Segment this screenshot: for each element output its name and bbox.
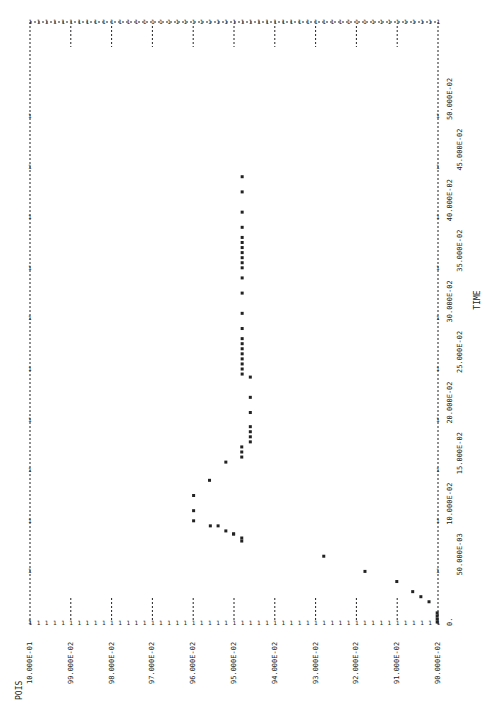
axis-marker: 1	[363, 18, 367, 25]
axis-marker: 1	[290, 18, 294, 25]
axis-marker: 1	[436, 466, 440, 473]
axis-marker: 1	[257, 18, 261, 25]
axis-marker: 1	[436, 567, 440, 574]
axis-marker: 1	[330, 18, 334, 25]
data-point	[192, 509, 195, 512]
axis-marker: 1	[37, 18, 41, 25]
data-point	[436, 614, 439, 617]
axis-marker: 1	[192, 18, 196, 25]
axis-marker: 1	[77, 619, 81, 626]
data-point	[249, 440, 252, 443]
axis-marker: 1	[412, 619, 416, 626]
axis-marker: 1	[388, 18, 392, 25]
axis-marker: 1	[28, 618, 32, 625]
data-point	[240, 537, 243, 540]
axis-marker: 1	[306, 18, 310, 25]
data-point	[322, 555, 325, 558]
axis-marker: 1	[53, 18, 57, 25]
data-point	[241, 261, 244, 264]
data-point	[240, 445, 243, 448]
axis-marker: 1	[208, 619, 212, 626]
time-tick-label: 50.000E-02	[446, 78, 454, 120]
axis-marker: 1	[241, 619, 245, 626]
time-tick-label: 15.000E-02	[456, 432, 464, 474]
axis-marker: 1	[126, 18, 130, 25]
data-point	[232, 532, 235, 535]
axis-marker: 1	[314, 18, 318, 25]
axis-marker: 1	[436, 264, 440, 271]
data-point	[241, 327, 244, 330]
data-point	[436, 621, 439, 624]
axis-marker: 1	[28, 163, 32, 170]
axis-marker: 1	[404, 619, 408, 626]
data-point	[241, 236, 244, 239]
plot-frame	[30, 22, 438, 622]
pois-tick-label: 96.000E-02	[189, 642, 197, 684]
axis-marker: 1	[86, 619, 90, 626]
axis-marker: 1	[233, 18, 237, 25]
axis-marker: 1	[273, 18, 277, 25]
data-point	[241, 357, 244, 360]
axis-marker: 1	[339, 18, 343, 25]
pois-tick-label: 91.000E-02	[393, 642, 401, 684]
data-point	[217, 524, 220, 527]
axis-marker: 1	[371, 18, 375, 25]
data-point	[411, 590, 414, 593]
data-point	[241, 362, 244, 365]
data-point	[241, 368, 244, 371]
axis-marker: 1	[233, 619, 237, 626]
axis-marker: 1	[388, 619, 392, 626]
pois-tick-label: 97.000E-02	[148, 642, 156, 684]
pois-tick-label: 98.000E-02	[108, 642, 116, 684]
data-point	[241, 211, 244, 214]
pois-tick-label: 95.000E-02	[230, 642, 238, 684]
time-tick-label: 10.000E-02	[446, 483, 454, 525]
axis-marker: 1	[436, 314, 440, 321]
axis-marker: 1	[37, 619, 41, 626]
axis-marker: 1	[184, 619, 188, 626]
data-point	[249, 396, 252, 399]
axis-marker: 1	[28, 567, 32, 574]
axis-marker: 1	[175, 18, 179, 25]
data-point	[241, 175, 244, 178]
axis-marker: 1	[281, 18, 285, 25]
axis-marker: 1	[28, 416, 32, 423]
data-point	[436, 617, 439, 620]
data-point	[240, 450, 243, 453]
data-point	[241, 226, 244, 229]
data-point	[240, 540, 243, 543]
axis-marker: 1	[224, 619, 228, 626]
axis-marker: 1	[306, 619, 310, 626]
axis-marker: 1	[77, 18, 81, 25]
axis-marker: 1	[298, 619, 302, 626]
axis-marker: 1	[420, 18, 424, 25]
axis-marker: 1	[135, 18, 139, 25]
axis-marker: 1	[281, 619, 285, 626]
axis-marker: 1	[290, 619, 294, 626]
axis-marker: 1	[216, 619, 220, 626]
data-point	[241, 190, 244, 193]
time-tick-label: 20.000E-02	[446, 381, 454, 423]
pois-tick-label: 90.000E-02	[434, 642, 442, 684]
time-axis: 110.1150.000E-031110.000E-021115.000E-02…	[28, 78, 464, 626]
axis-marker: 1	[347, 619, 351, 626]
data-point	[428, 600, 431, 603]
time-tick-label: 40.000E-02	[446, 179, 454, 221]
axis-marker: 1	[436, 416, 440, 423]
axis-marker: 1	[126, 619, 130, 626]
axis-marker: 1	[371, 619, 375, 626]
data-point	[249, 435, 252, 438]
axis-marker: 1	[363, 619, 367, 626]
data-points	[192, 175, 439, 623]
data-point	[241, 337, 244, 340]
time-tick-label: 35.000E-02	[456, 230, 464, 272]
data-point	[436, 611, 439, 614]
axis-marker: 1	[355, 619, 359, 626]
data-point	[241, 342, 244, 345]
data-point	[241, 373, 244, 376]
data-point	[241, 352, 244, 355]
axis-marker: 1	[436, 213, 440, 220]
data-point	[240, 456, 243, 459]
data-point	[395, 580, 398, 583]
axis-marker: 1	[94, 619, 98, 626]
